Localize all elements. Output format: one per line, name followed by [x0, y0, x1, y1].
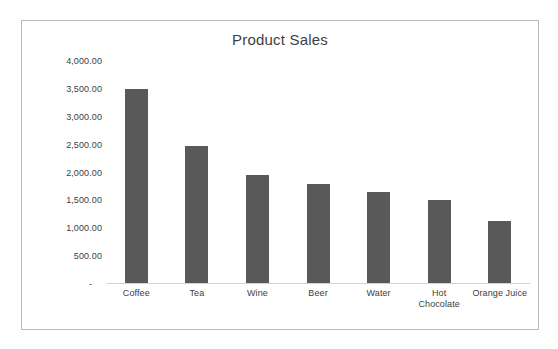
bar-wine[interactable] [246, 175, 269, 283]
x-axis-tick-label: Water [348, 285, 409, 317]
chart-title: Product Sales [22, 31, 538, 48]
bar-slot [348, 61, 409, 283]
x-axis-tick-label: Beer [288, 285, 349, 317]
x-axis: CoffeeTeaWineBeerWaterHotChocolateOrange… [106, 285, 530, 317]
bar-water[interactable] [367, 192, 390, 283]
bar-slot [288, 61, 349, 283]
y-axis-tick-label: 500.00 [74, 251, 102, 261]
x-axis-tick-label: Orange Juice [469, 285, 530, 317]
bar-slot [167, 61, 228, 283]
x-axis-tick-label-line: Tea [167, 288, 228, 299]
y-axis-tick-label: 3,000.00 [66, 112, 102, 122]
x-axis-line [106, 283, 530, 284]
x-axis-tick-label-line: Hot [409, 288, 470, 299]
y-axis-tick-label: 3,500.00 [66, 84, 102, 94]
bar-hot-chocolate[interactable] [428, 200, 451, 283]
bar-orange-juice[interactable] [488, 221, 511, 283]
x-axis-tick-label-line: Water [348, 288, 409, 299]
x-axis-tick-label-line: Chocolate [409, 299, 470, 310]
x-axis-tick-label-line: Beer [288, 288, 349, 299]
y-axis-tick-label: 4,000.00 [66, 56, 102, 66]
x-axis-tick-label: Tea [167, 285, 228, 317]
y-axis-tick-label: 1,000.00 [66, 223, 102, 233]
y-axis: 4,000.003,500.003,000.002,500.002,000.00… [30, 61, 102, 284]
x-axis-tick-label-line: Wine [227, 288, 288, 299]
bar-beer[interactable] [307, 184, 330, 283]
x-axis-tick-label: HotChocolate [409, 285, 470, 317]
bar-slot [106, 61, 167, 283]
y-axis-tick-label: 2,500.00 [66, 140, 102, 150]
x-axis-tick-label: Coffee [106, 285, 167, 317]
bar-series [106, 61, 530, 283]
bar-slot [409, 61, 470, 283]
x-axis-tick-label-line: Coffee [106, 288, 167, 299]
y-axis-tick-label: 1,500.00 [66, 195, 102, 205]
bar-tea[interactable] [185, 146, 208, 283]
x-axis-tick-label: Wine [227, 285, 288, 317]
bar-slot [469, 61, 530, 283]
bar-coffee[interactable] [125, 89, 148, 283]
bar-slot [227, 61, 288, 283]
x-axis-tick-label-line: Orange Juice [469, 288, 530, 299]
y-axis-tick-label: 2,000.00 [66, 168, 102, 178]
y-axis-tick-label: - [89, 279, 102, 289]
chart-frame[interactable]: Product Sales 4,000.003,500.003,000.002,… [21, 20, 539, 330]
